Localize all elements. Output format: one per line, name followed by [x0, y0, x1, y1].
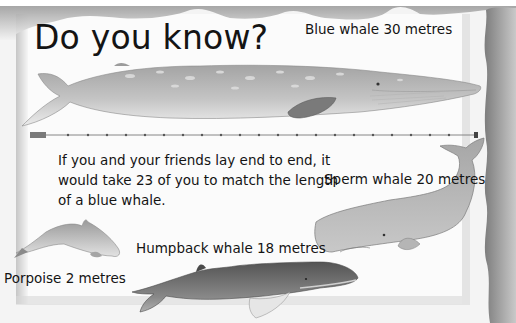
blue-whale-label: Blue whale 30 metres: [305, 21, 452, 37]
humpback-whale-label: Humpback whale 18 metres: [136, 240, 326, 256]
page-title: Do you know?: [34, 18, 268, 57]
book-page: Do you know? Blue whale 30 metres If you…: [0, 0, 516, 323]
next-page-edge: [485, 8, 516, 323]
person-lying-icon: [30, 132, 46, 138]
sperm-whale-label: Sperm whale 20 metres: [324, 171, 485, 187]
fact-line: If you and your friends lay end to end, …: [58, 150, 478, 170]
fact-line: of a blue whale.: [58, 190, 478, 210]
porpoise-label: Porpoise 2 metres: [4, 270, 126, 286]
